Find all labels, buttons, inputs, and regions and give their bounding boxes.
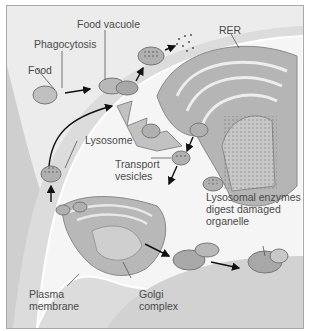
label-golgi-complex: Golgi complex xyxy=(139,288,178,312)
label-transport-vesicles: Transport vesicles xyxy=(115,158,160,182)
label-food-vacuole: Food vacuole xyxy=(77,18,140,30)
label-plasma-membrane: Plasma membrane xyxy=(29,288,79,312)
label-rer: RER xyxy=(219,24,241,36)
label-food: Food xyxy=(28,64,52,76)
label-lysosomal-enzymes: Lysosomal enzymes digest damaged organel… xyxy=(206,191,301,227)
label-phagocytosis: Phagocytosis xyxy=(34,38,96,50)
diagram-frame: Food Phagocytosis Food vacuole RER Lysos… xyxy=(6,5,304,329)
label-lysosome: Lysosome xyxy=(85,134,132,146)
